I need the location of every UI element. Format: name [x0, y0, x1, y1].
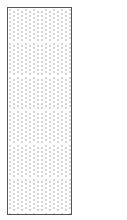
dotted-pattern-rectangle [7, 7, 72, 215]
canvas [0, 0, 127, 220]
herringbone-dot-pattern-icon [8, 8, 71, 214]
